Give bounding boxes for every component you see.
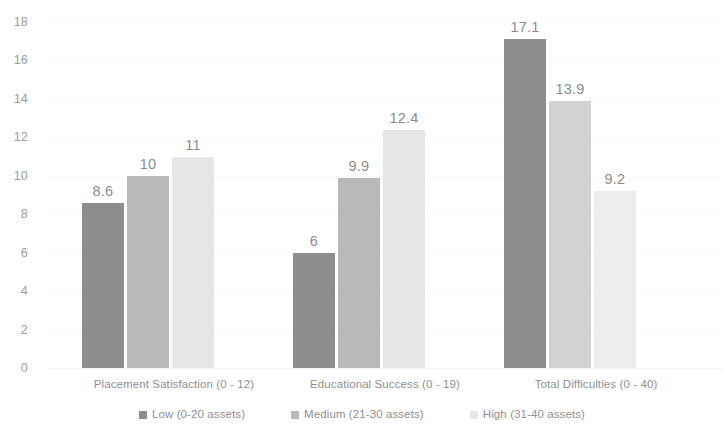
legend-item-medium[interactable]: Medium (21-30 assets) <box>291 409 424 421</box>
legend-swatch-icon <box>470 411 478 419</box>
bar-value-label: 13.9 <box>535 82 605 97</box>
y-axis-tick: 2 <box>0 324 28 337</box>
y-axis-tick: 0 <box>0 362 28 375</box>
bar-value-label: 12.4 <box>369 111 439 126</box>
y-axis-tick: 12 <box>0 131 28 144</box>
y-axis-tick: 10 <box>0 170 28 183</box>
y-axis-tick: 8 <box>0 208 28 221</box>
chart-legend: Low (0-20 assets) Medium (21-30 assets) … <box>0 409 724 421</box>
bar-fill <box>549 101 591 368</box>
legend-label: Medium (21-30 assets) <box>304 409 424 421</box>
bar-fill <box>172 157 214 368</box>
y-axis-tick: 6 <box>0 247 28 260</box>
bar-fill <box>82 203 124 368</box>
bar-group: 8.6 10 11 <box>82 22 222 368</box>
bar-value-label: 17.1 <box>490 20 560 35</box>
bar-fill <box>383 130 425 368</box>
y-axis: 18 16 14 12 10 8 6 4 2 0 <box>0 0 48 380</box>
bar-fill <box>293 253 335 368</box>
y-axis-tick: 14 <box>0 93 28 106</box>
bar-fill <box>338 178 380 368</box>
y-axis-tick: 4 <box>0 285 28 298</box>
legend-label: High (31-40 assets) <box>483 409 585 421</box>
plot-area: 8.6 10 11 6 9.9 12.4 <box>48 0 724 380</box>
bar-value-label: 9.2 <box>580 172 650 187</box>
x-axis-category-label: Total Difficulties (0 - 40) <box>456 378 724 392</box>
axis-baseline <box>48 368 722 369</box>
legend-swatch-icon <box>291 411 299 419</box>
bar-fill <box>594 191 636 368</box>
bar-group: 17.1 13.9 9.2 <box>504 22 644 368</box>
legend-item-low[interactable]: Low (0-20 assets) <box>139 409 245 421</box>
legend-swatch-icon <box>139 411 147 419</box>
y-axis-tick: 18 <box>0 16 28 29</box>
y-axis-tick: 16 <box>0 54 28 67</box>
legend-item-high[interactable]: High (31-40 assets) <box>470 409 585 421</box>
bar-value-label: 11 <box>158 138 228 153</box>
legend-label: Low (0-20 assets) <box>152 409 245 421</box>
bar-fill <box>127 176 169 368</box>
bar-group: 6 9.9 12.4 <box>293 22 433 368</box>
bar-chart: 18 16 14 12 10 8 6 4 2 0 8.6 10 <box>0 0 724 434</box>
